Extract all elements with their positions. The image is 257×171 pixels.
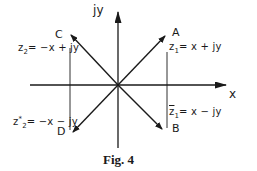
z1-expression: z1= x + jy [169, 42, 222, 55]
diagram-drawing [0, 0, 257, 171]
figure-caption: Fig. 4 [103, 153, 134, 166]
z1-conjugate-expression: z1= x − jy [169, 107, 222, 120]
x-axis-label: x [229, 88, 236, 100]
point-B-label: B [172, 123, 180, 134]
complex-plane-diagram: jy x A B C D z1= x + jy z1= x − jy z2= −… [0, 0, 257, 171]
vector-D [73, 85, 118, 132]
y-axis-label: jy [93, 4, 104, 16]
z2-expression: z2= −x + jy [18, 43, 79, 56]
vector-B [118, 85, 162, 129]
point-C-label: C [55, 29, 63, 40]
vector-A [118, 36, 165, 85]
point-A-label: A [172, 27, 180, 38]
z2-conjugate-expression: z*2= −x − jy [13, 116, 78, 130]
